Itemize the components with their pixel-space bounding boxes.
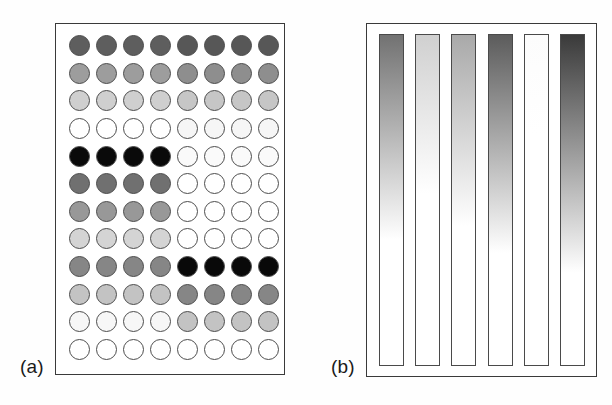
dot-cell [255, 60, 282, 88]
dot-cell [93, 60, 120, 88]
dot-cell [147, 336, 174, 364]
matrix-dot [69, 228, 90, 249]
matrix-dot [258, 284, 279, 305]
dot-cell [66, 87, 93, 115]
dot-cell [201, 60, 228, 88]
matrix-dot [258, 90, 279, 111]
dot-cell [120, 142, 147, 170]
dot-cell [147, 198, 174, 226]
dot-cell [93, 32, 120, 60]
matrix-dot [96, 339, 117, 360]
dot-cell [174, 87, 201, 115]
dot-cell [147, 87, 174, 115]
dot-cell [201, 253, 228, 281]
dot-cell [66, 308, 93, 336]
dot-cell [147, 142, 174, 170]
matrix-dot [150, 201, 171, 222]
dot-cell [228, 170, 255, 198]
dot-cell [147, 280, 174, 308]
matrix-dot [69, 201, 90, 222]
dot-cell [120, 87, 147, 115]
dot-cell [174, 32, 201, 60]
gradient-bar [524, 34, 549, 366]
matrix-dot [150, 256, 171, 277]
matrix-dot [231, 284, 252, 305]
matrix-dot [96, 201, 117, 222]
gradient-bar [488, 34, 513, 366]
dot-cell [66, 32, 93, 60]
dot-cell [66, 280, 93, 308]
dot-cell [93, 225, 120, 253]
matrix-dot [69, 35, 90, 56]
dot-cell [228, 60, 255, 88]
matrix-dot [258, 35, 279, 56]
matrix-dot [123, 256, 144, 277]
matrix-dot [258, 256, 279, 277]
dot-cell [255, 198, 282, 226]
matrix-dot [96, 35, 117, 56]
matrix-dot [123, 339, 144, 360]
matrix-dot [96, 90, 117, 111]
dot-cell [228, 198, 255, 226]
dot-cell [93, 336, 120, 364]
matrix-dot [204, 118, 225, 139]
matrix-dot [150, 118, 171, 139]
matrix-dot [204, 146, 225, 167]
matrix-dot [123, 311, 144, 332]
matrix-dot [204, 311, 225, 332]
dot-cell [147, 225, 174, 253]
dot-cell [147, 308, 174, 336]
dot-cell [174, 280, 201, 308]
matrix-dot [150, 228, 171, 249]
matrix-dot [231, 339, 252, 360]
matrix-dot [231, 201, 252, 222]
dot-cell [255, 32, 282, 60]
matrix-dot [96, 228, 117, 249]
matrix-dot [96, 256, 117, 277]
matrix-dot [204, 90, 225, 111]
dot-cell [228, 32, 255, 60]
dot-cell [255, 253, 282, 281]
matrix-dot [69, 63, 90, 84]
matrix-dot [204, 201, 225, 222]
dot-cell [120, 225, 147, 253]
dot-cell [66, 170, 93, 198]
matrix-dot [150, 63, 171, 84]
dot-cell [228, 142, 255, 170]
matrix-dot [123, 35, 144, 56]
matrix-dot [231, 146, 252, 167]
matrix-dot [123, 228, 144, 249]
matrix-dot [231, 35, 252, 56]
dot-cell [147, 60, 174, 88]
dot-cell [255, 225, 282, 253]
dot-cell [228, 336, 255, 364]
matrix-dot [150, 284, 171, 305]
matrix-dot [177, 311, 198, 332]
matrix-dot [177, 35, 198, 56]
matrix-dot [204, 63, 225, 84]
matrix-dot [177, 201, 198, 222]
dot-cell [255, 87, 282, 115]
matrix-dot [177, 118, 198, 139]
matrix-dot [231, 63, 252, 84]
matrix-dot [69, 173, 90, 194]
dot-cell [228, 115, 255, 143]
matrix-dot [150, 90, 171, 111]
dot-cell [201, 32, 228, 60]
gradient-bar [379, 34, 404, 366]
panel-a-frame [55, 23, 285, 375]
matrix-dot [96, 118, 117, 139]
dot-cell [255, 142, 282, 170]
dot-cell [255, 115, 282, 143]
dot-cell [255, 308, 282, 336]
matrix-dot [231, 173, 252, 194]
dot-cell [66, 115, 93, 143]
dot-cell [147, 170, 174, 198]
dot-cell [228, 225, 255, 253]
dot-cell [228, 253, 255, 281]
matrix-dot [258, 228, 279, 249]
matrix-dot [177, 173, 198, 194]
dot-cell [228, 87, 255, 115]
dot-cell [120, 253, 147, 281]
matrix-dot [96, 146, 117, 167]
